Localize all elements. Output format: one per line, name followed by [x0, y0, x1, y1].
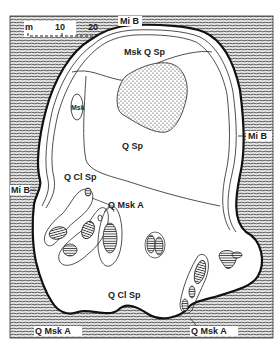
- host-rock-island: [147, 235, 155, 253]
- boundary-label-right: Mi B: [248, 131, 267, 141]
- scale-tick-10: 10: [55, 22, 65, 32]
- host-rock-island: [189, 286, 195, 298]
- host-rock-island: [63, 244, 77, 256]
- host-rock-island: [155, 237, 163, 255]
- zone-label-bottom-right: Q Msk A: [191, 326, 227, 336]
- geologic-map: m 10 20 Mi B Msk Q Sp Msk Q Sp Mi B Q Cl…: [0, 0, 279, 348]
- host-rock-island: [85, 188, 91, 196]
- zone-label-bottom-left: Q Msk A: [35, 326, 71, 336]
- host-rock-island: [98, 215, 102, 221]
- zone-label-islands: Q Msk A: [108, 200, 144, 210]
- scale-tick-20: 20: [88, 22, 98, 32]
- boundary-label-top: Mi B: [120, 16, 139, 26]
- host-rock-island: [232, 252, 242, 258]
- zone-label-upper: Msk Q Sp: [124, 47, 166, 57]
- zone-label-left: Q Cl Sp: [64, 172, 97, 182]
- zone-label-msk: Msk: [71, 104, 85, 111]
- host-rock-island: [182, 299, 188, 311]
- host-rock-island: [103, 223, 117, 253]
- boundary-label-left: Mi B: [11, 185, 30, 195]
- zone-label-central: Q Sp: [122, 141, 144, 151]
- zone-label-lower: Q Cl Sp: [108, 290, 141, 300]
- scale-unit: m: [25, 22, 33, 32]
